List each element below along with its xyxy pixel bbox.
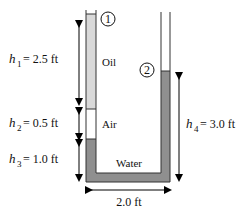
point-2-marker: 2	[140, 63, 154, 77]
svg-text:= 0.5 ft: = 0.5 ft	[23, 116, 59, 130]
width-label: 2.0 ft	[116, 195, 142, 209]
h3-label: h 3 = 1.0 ft	[9, 151, 59, 169]
oil-label: Oil	[102, 56, 116, 68]
manometer-diagram: 1 2 Oil Air Water h 1 = 2.5 ft h 2 = 0.5…	[0, 0, 251, 214]
point-1-marker: 1	[101, 12, 115, 26]
svg-text:2: 2	[144, 63, 150, 77]
svg-text:2: 2	[17, 123, 22, 133]
svg-text:h: h	[9, 51, 16, 66]
svg-text:= 2.5 ft: = 2.5 ft	[23, 52, 59, 66]
svg-text:h: h	[9, 115, 16, 130]
svg-text:h: h	[9, 151, 16, 166]
air-label: Air	[102, 118, 117, 130]
svg-text:= 3.0 ft: = 3.0 ft	[200, 117, 236, 131]
svg-text:4: 4	[194, 124, 199, 134]
h2-label: h 2 = 0.5 ft	[9, 115, 59, 133]
svg-text:h: h	[186, 116, 193, 131]
h1-label: h 1 = 2.5 ft	[9, 51, 59, 69]
svg-text:= 1.0 ft: = 1.0 ft	[23, 152, 59, 166]
svg-text:1: 1	[17, 59, 22, 69]
oil-column	[86, 14, 96, 109]
h4-label: h 4 = 3.0 ft	[186, 116, 236, 134]
air-column	[86, 109, 96, 139]
svg-text:3: 3	[17, 159, 22, 169]
water-label: Water	[116, 157, 142, 169]
svg-text:1: 1	[105, 12, 111, 26]
